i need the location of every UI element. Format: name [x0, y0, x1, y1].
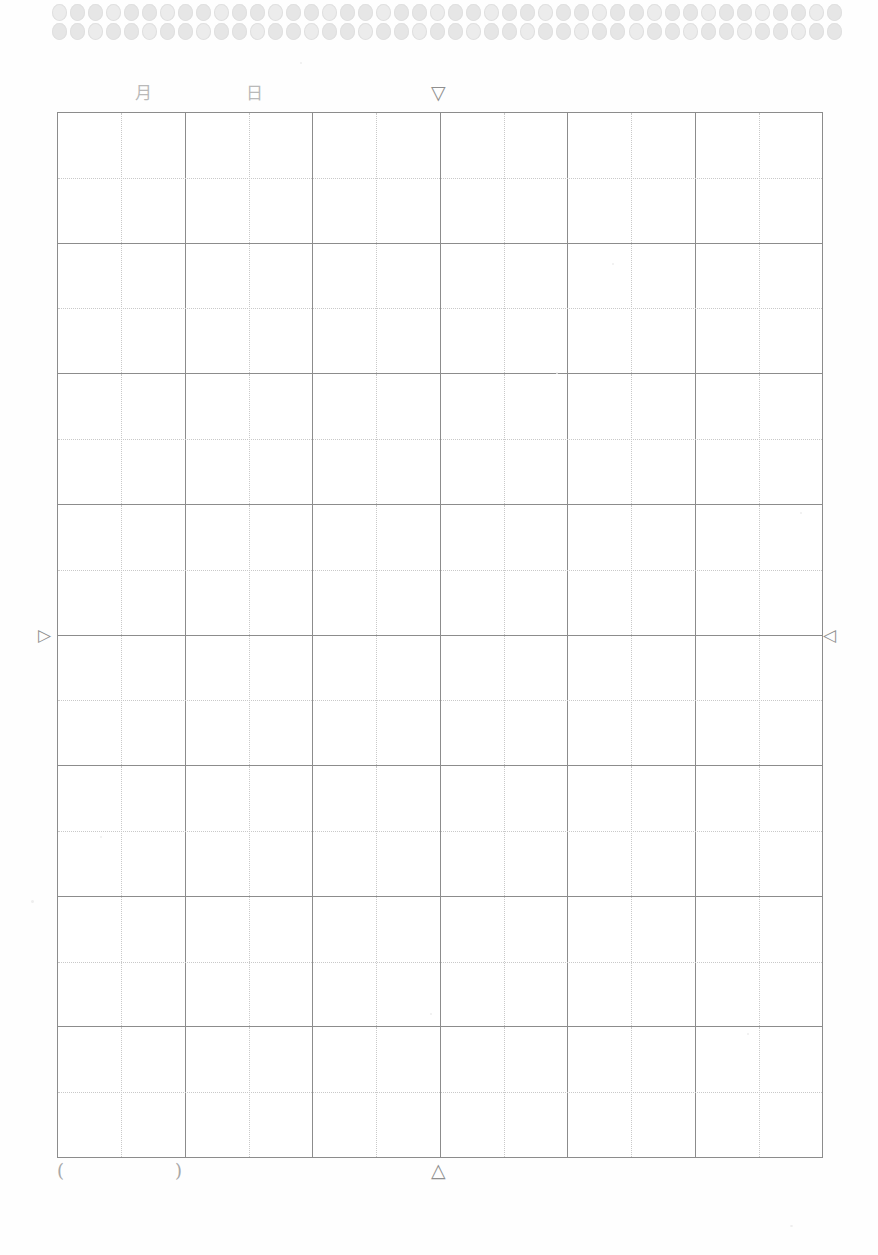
grid-cell[interactable]: [696, 636, 823, 766]
grid-cell[interactable]: [313, 374, 441, 504]
grid-cell[interactable]: [186, 505, 314, 635]
binding-dot: [322, 4, 337, 21]
grid-cell[interactable]: [696, 897, 823, 1027]
binding-dot: [484, 23, 499, 40]
binding-dot: [376, 4, 391, 21]
grid-cell[interactable]: [313, 113, 441, 243]
binding-dot: [232, 23, 247, 40]
binding-dot: [791, 23, 806, 40]
binding-dot: [196, 4, 211, 21]
grid-cell[interactable]: [568, 1027, 696, 1157]
grid-cell[interactable]: [441, 505, 569, 635]
grid-cell[interactable]: [696, 113, 823, 243]
grid-cell[interactable]: [58, 374, 186, 504]
grid-rows-container: [58, 113, 822, 1157]
grid-cell[interactable]: [568, 374, 696, 504]
grid-cell[interactable]: [441, 374, 569, 504]
dot-row-bottom: [52, 23, 842, 42]
grid-cell[interactable]: [313, 897, 441, 1027]
grid-cell[interactable]: [313, 636, 441, 766]
grid-cell[interactable]: [58, 897, 186, 1027]
binding-dot: [665, 4, 680, 21]
binding-dot: [466, 4, 481, 21]
grid-cell[interactable]: [186, 113, 314, 243]
grid-cell[interactable]: [58, 244, 186, 374]
binding-dot: [737, 4, 752, 21]
binding-dot: [376, 23, 391, 40]
grid-cell[interactable]: [441, 766, 569, 896]
binding-dot: [556, 23, 571, 40]
binding-dot: [755, 23, 770, 40]
binding-dot: [358, 23, 373, 40]
grid-cell[interactable]: [568, 636, 696, 766]
grid-cell[interactable]: [441, 897, 569, 1027]
binding-dot: [755, 4, 770, 21]
binding-dot: [791, 4, 806, 21]
binding-dot: [683, 4, 698, 21]
binding-dot: [232, 4, 247, 21]
grid-cell[interactable]: [696, 1027, 823, 1157]
binding-dot: [394, 4, 409, 21]
grid-cell[interactable]: [441, 244, 569, 374]
scan-speckle: [31, 900, 34, 903]
binding-dot: [196, 23, 211, 40]
grid-row: [58, 505, 822, 636]
grid-cell[interactable]: [696, 505, 823, 635]
grid-cell[interactable]: [58, 113, 186, 243]
day-label: 日: [246, 85, 263, 102]
binding-dot: [412, 4, 427, 21]
binding-dot: [610, 4, 625, 21]
binding-dot: [160, 23, 175, 40]
grid-cell[interactable]: [441, 1027, 569, 1157]
grid-cell[interactable]: [568, 766, 696, 896]
grid-cell[interactable]: [568, 244, 696, 374]
binding-dot: [304, 23, 319, 40]
binding-dot: [214, 4, 229, 21]
grid-row: [58, 244, 822, 375]
grid-cell[interactable]: [186, 897, 314, 1027]
grid-cell[interactable]: [696, 244, 823, 374]
grid-cell[interactable]: [568, 113, 696, 243]
binding-dot: [52, 4, 67, 21]
grid-cell[interactable]: [58, 505, 186, 635]
grid-cell[interactable]: [696, 766, 823, 896]
binding-dot: [340, 23, 355, 40]
grid-cell[interactable]: [313, 505, 441, 635]
binding-dot: [448, 23, 463, 40]
header-area: 月 日 ▽: [0, 78, 878, 112]
grid-cell[interactable]: [313, 766, 441, 896]
binding-dot: [430, 4, 445, 21]
binding-dot: [250, 4, 265, 21]
binding-dot: [178, 23, 193, 40]
binding-dot: [737, 23, 752, 40]
left-center-triangle-icon: ▷: [38, 627, 51, 644]
binding-dot: [773, 4, 788, 21]
binding-dot: [430, 23, 445, 40]
grid-cell[interactable]: [568, 897, 696, 1027]
binding-dot: [106, 4, 121, 21]
grid-cell[interactable]: [568, 505, 696, 635]
binding-dot: [142, 4, 157, 21]
grid-cell[interactable]: [313, 244, 441, 374]
grid-cell[interactable]: [186, 374, 314, 504]
grid-cell[interactable]: [58, 766, 186, 896]
grid-cell[interactable]: [441, 636, 569, 766]
grid-cell[interactable]: [58, 636, 186, 766]
binding-dot: [701, 4, 716, 21]
binding-dot: [827, 4, 842, 21]
binding-dot: [629, 4, 644, 21]
grid-cell[interactable]: [186, 1027, 314, 1157]
grid-cell[interactable]: [186, 636, 314, 766]
grid-cell[interactable]: [186, 766, 314, 896]
binding-dot: [88, 4, 103, 21]
grid-cell[interactable]: [696, 374, 823, 504]
grid-cell[interactable]: [58, 1027, 186, 1157]
grid-cell[interactable]: [441, 113, 569, 243]
binding-dot: [719, 4, 734, 21]
binding-dot: [665, 23, 680, 40]
grid-cell[interactable]: [313, 1027, 441, 1157]
grid-cell[interactable]: [186, 244, 314, 374]
binding-dot: [340, 4, 355, 21]
binding-dot: [538, 23, 553, 40]
binding-dot: [268, 4, 283, 21]
